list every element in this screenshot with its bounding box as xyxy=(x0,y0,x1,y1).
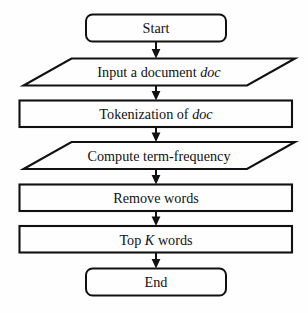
node-label-input-document: Input a document doc xyxy=(34,65,284,79)
node-label-remove-words: Remove words xyxy=(31,191,281,205)
node-label-tokenization-italic: doc xyxy=(192,106,213,122)
node-label-compute-term-frequency-prefix: Compute term-frequency xyxy=(87,148,230,164)
node-label-start: Start xyxy=(86,21,226,35)
connector-input-document-to-tokenization xyxy=(152,86,161,101)
node-label-top-k-words: Top K words xyxy=(31,233,281,247)
connector-top-k-words-to-end xyxy=(152,253,161,269)
node-label-remove-words-prefix: Remove words xyxy=(113,190,199,206)
connector-compute-term-frequency-to-remove-words xyxy=(152,169,161,185)
connector-remove-words-to-top-k-words xyxy=(152,211,161,226)
node-label-compute-term-frequency: Compute term-frequency xyxy=(34,149,284,163)
node-label-top-k-words-italic: K xyxy=(145,232,154,248)
node-label-top-k-words-prefix: Top xyxy=(119,232,144,248)
node-label-end-text: End xyxy=(145,274,168,290)
node-label-tokenization: Tokenization of doc xyxy=(31,107,281,121)
node-label-tokenization-prefix: Tokenization of xyxy=(99,106,192,122)
connector-tokenization-to-compute-term-frequency xyxy=(152,127,161,142)
node-label-input-document-italic: doc xyxy=(200,64,221,80)
node-label-start-text: Start xyxy=(143,20,170,36)
node-label-input-document-prefix: Input a document xyxy=(97,64,200,80)
flowchart-diagram: Start Input a document doc Tokenization … xyxy=(0,0,308,313)
node-label-end: End xyxy=(86,275,226,289)
connector-start-to-input-document xyxy=(152,42,161,59)
node-label-top-k-words-suffix: words xyxy=(154,232,192,248)
